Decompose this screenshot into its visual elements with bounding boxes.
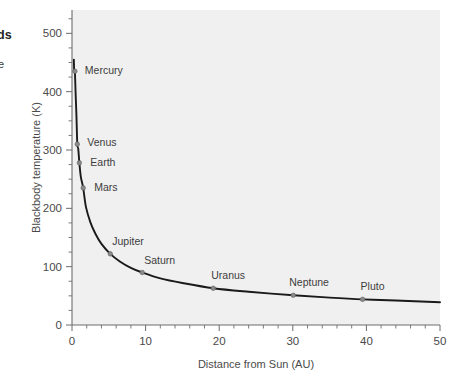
svg-text:Venus: Venus — [87, 136, 116, 148]
svg-text:Neptune: Neptune — [289, 276, 329, 288]
planet-data-labels: MercuryVenusEarthMarsJupiterSaturnUranus… — [85, 64, 385, 292]
blackbody-temperature-curve — [74, 60, 440, 303]
svg-text:Uranus: Uranus — [211, 269, 245, 281]
svg-text:Saturn: Saturn — [144, 254, 175, 266]
svg-text:500: 500 — [43, 27, 62, 39]
svg-text:50: 50 — [434, 335, 447, 347]
x-axis-title: Distance from Sun (AU) — [198, 358, 314, 370]
svg-text:100: 100 — [43, 261, 62, 273]
blackbody-temperature-figure: ds e 0100200300400500 01020304050 Mercur… — [0, 0, 471, 373]
svg-text:200: 200 — [43, 202, 62, 214]
svg-text:0: 0 — [69, 335, 75, 347]
svg-text:40: 40 — [360, 335, 373, 347]
svg-text:400: 400 — [43, 86, 62, 98]
svg-text:10: 10 — [139, 335, 152, 347]
chart-canvas: 0100200300400500 01020304050 MercuryVenu… — [0, 0, 471, 373]
x-axis-major-ticks — [72, 325, 440, 331]
svg-text:Jupiter: Jupiter — [112, 235, 144, 247]
svg-text:Pluto: Pluto — [361, 280, 385, 292]
y-axis-tick-labels: 0100200300400500 — [43, 27, 62, 331]
svg-text:300: 300 — [43, 144, 62, 156]
svg-text:30: 30 — [286, 335, 299, 347]
svg-text:0: 0 — [56, 319, 62, 331]
x-axis-tick-labels: 01020304050 — [69, 335, 447, 347]
y-axis-title: Blackbody temperature (K) — [30, 102, 42, 233]
svg-text:Mars: Mars — [94, 181, 117, 193]
svg-text:Mercury: Mercury — [85, 64, 124, 76]
svg-text:20: 20 — [213, 335, 226, 347]
svg-text:Earth: Earth — [90, 156, 115, 168]
